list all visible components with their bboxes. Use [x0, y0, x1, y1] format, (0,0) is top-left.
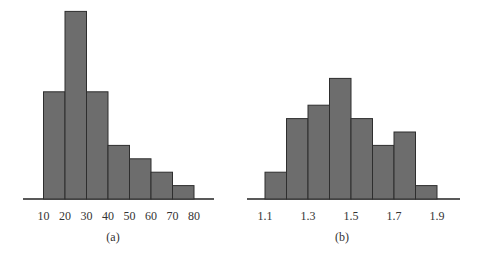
histogram-b: 1.11.31.51.71.9 (b) [247, 78, 460, 244]
tick-label: 30 [81, 209, 93, 223]
tick-label: 1.7 [387, 209, 402, 223]
tick-label: 80 [188, 209, 200, 223]
histogram-bar [173, 186, 195, 199]
histogram-bar [151, 172, 173, 199]
tick-labels-b: 1.11.31.51.71.9 [258, 209, 445, 223]
bars-b [265, 78, 437, 199]
histogram-a: 1020304050607080 (a) [23, 11, 214, 244]
histogram-bar [416, 186, 438, 199]
histogram-bar [394, 132, 416, 199]
tick-label: 70 [167, 209, 179, 223]
histogram-bar [330, 78, 352, 199]
tick-labels-a: 1020304050607080 [38, 209, 201, 223]
histogram-bar [130, 159, 152, 199]
histogram-bar [108, 145, 130, 199]
tick-label: 10 [38, 209, 50, 223]
tick-label: 1.9 [430, 209, 445, 223]
histogram-bar [373, 145, 395, 199]
caption-b: (b) [335, 230, 349, 244]
tick-label: 40 [102, 209, 114, 223]
histogram-bar [44, 92, 66, 199]
tick-label: 1.5 [344, 209, 359, 223]
tick-label: 1.1 [258, 209, 273, 223]
histogram-bar [65, 11, 87, 199]
histogram-bar [287, 119, 309, 199]
histogram-bar [265, 172, 287, 199]
caption-a: (a) [106, 230, 119, 244]
tick-label: 20 [59, 209, 71, 223]
bars-a [44, 11, 195, 199]
histogram-figure: 1020304050607080 (a) 1.11.31.51.71.9 (b) [0, 0, 478, 256]
histogram-bar [308, 105, 330, 199]
histogram-bar [87, 92, 109, 199]
tick-label: 60 [145, 209, 157, 223]
tick-label: 1.3 [301, 209, 316, 223]
histogram-bar [351, 119, 373, 199]
tick-label: 50 [124, 209, 136, 223]
